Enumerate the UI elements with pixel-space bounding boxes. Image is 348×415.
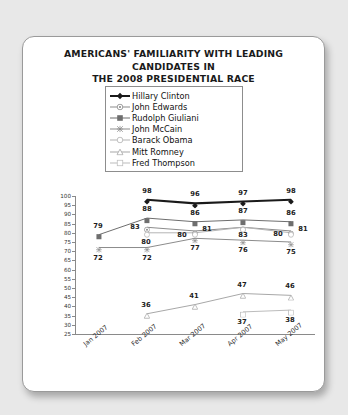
- y-axis-tick: [72, 306, 75, 307]
- y-axis-tick: [72, 325, 75, 326]
- y-axis-tick-label: 100: [55, 193, 71, 199]
- y-axis-tick: [72, 205, 75, 206]
- y-axis-tick-label: 85: [55, 221, 71, 227]
- y-axis-tick: [72, 270, 75, 271]
- data-point-label: 98: [286, 187, 295, 195]
- y-axis-tick-label: 50: [55, 285, 71, 291]
- series-line: [243, 310, 291, 312]
- y-axis-tick: [72, 214, 75, 215]
- data-point-label: 46: [285, 282, 294, 290]
- y-axis-tick: [72, 242, 75, 243]
- y-axis-tick-label: 35: [55, 313, 71, 319]
- y-axis-tick-label: 25: [55, 331, 71, 337]
- y-axis-tick-label: 60: [55, 267, 71, 273]
- y-axis-tick: [72, 297, 75, 298]
- series-line: [147, 200, 291, 204]
- data-point-label: 80: [273, 230, 282, 238]
- data-point-label: 77: [190, 244, 199, 252]
- data-point-label: 76: [238, 246, 247, 254]
- y-axis-tick: [72, 279, 75, 280]
- y-axis-tick: [72, 288, 75, 289]
- data-point-label: 80: [177, 231, 186, 239]
- data-point-label: 87: [238, 207, 247, 215]
- data-point-label: 81: [298, 225, 307, 233]
- y-axis-tick: [72, 233, 75, 234]
- y-axis-tick-label: 80: [55, 230, 71, 236]
- y-axis-tick-label: 70: [55, 248, 71, 254]
- series-line: [147, 227, 291, 233]
- data-point-label: 96: [190, 190, 199, 198]
- y-axis-tick: [72, 196, 75, 197]
- data-point-label: 72: [142, 254, 151, 262]
- chart-card: AMERICANS' FAMILIARITY WITH LEADING CAND…: [22, 36, 325, 392]
- y-axis-tick-label: 65: [55, 257, 71, 263]
- plot-area: 100959085807570656055504540353025Jan 200…: [23, 37, 325, 392]
- data-point-label: 97: [238, 189, 247, 197]
- data-point-label: 41: [189, 292, 198, 300]
- data-point-label: 98: [142, 187, 151, 195]
- y-axis-tick: [72, 251, 75, 252]
- y-axis-tick-label: 40: [55, 303, 71, 309]
- data-point-label: 86: [190, 209, 199, 217]
- data-point-label: 38: [285, 316, 294, 324]
- data-point-label: 79: [93, 222, 102, 230]
- data-point-label: 37: [237, 318, 246, 326]
- y-axis-tick-label: 95: [55, 202, 71, 208]
- y-axis-tick: [72, 316, 75, 317]
- data-point-label: 83: [238, 231, 247, 239]
- data-point-label: 47: [237, 281, 246, 289]
- data-point-label: 81: [202, 225, 211, 233]
- y-axis-tick-label: 75: [55, 239, 71, 245]
- data-point-label: 80: [141, 238, 150, 246]
- y-axis-tick: [72, 260, 75, 261]
- data-point-label: 88: [142, 205, 151, 213]
- y-axis-tick-label: 90: [55, 211, 71, 217]
- y-axis-tick-label: 45: [55, 294, 71, 300]
- y-axis: [75, 196, 76, 334]
- data-point-label: 83: [130, 223, 139, 231]
- y-axis-tick-label: 30: [55, 322, 71, 328]
- y-axis-tick-label: 55: [55, 276, 71, 282]
- data-point-label: 75: [286, 248, 295, 256]
- data-point-label: 86: [286, 209, 295, 217]
- data-point-label: 72: [93, 254, 102, 262]
- y-axis-tick: [72, 224, 75, 225]
- data-point-label: 36: [141, 301, 150, 309]
